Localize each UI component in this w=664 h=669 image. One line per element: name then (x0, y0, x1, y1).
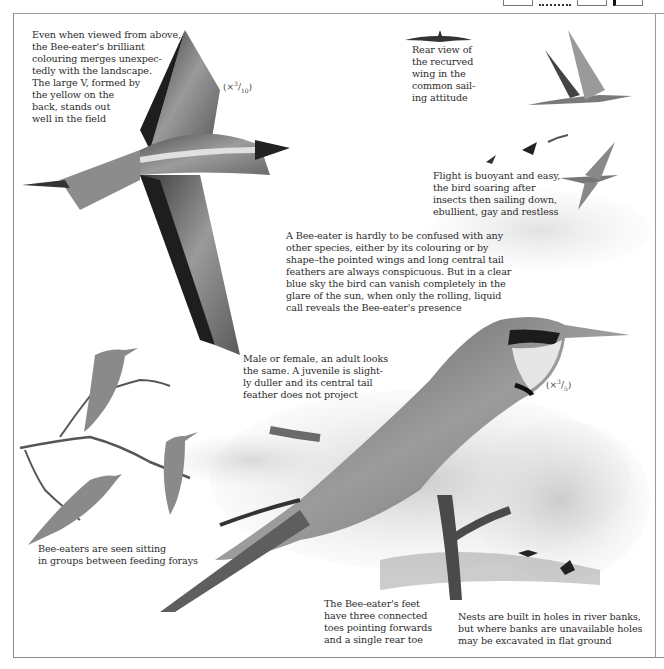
caption-viewed-from-above: Even when viewed from above, the Bee-eat… (32, 29, 181, 125)
rear-view-wing (405, 30, 472, 42)
scale-label-perched: (×3/5) (546, 378, 571, 392)
bee-eaters-on-branch (20, 348, 198, 545)
caption-sexes: Male or female, an adult looks the same.… (243, 353, 388, 401)
scale-label-flying: (×3/10) (223, 80, 252, 94)
caption-identification: A Bee-eater is hardly to be confused wit… (286, 230, 511, 314)
caption-rear-view-wing: Rear view of the recurved wing in the co… (412, 44, 475, 104)
caption-nests: Nests are built in holes in river banks,… (458, 611, 642, 647)
caption-flight: Flight is buoyant and easy, the bird soa… (433, 170, 560, 218)
caption-groups: Bee-eaters are seen sitting in groups be… (38, 543, 198, 567)
sailing-bee-eater (528, 30, 632, 105)
caption-feet: The Bee-eater's feet have three connecte… (324, 598, 432, 646)
